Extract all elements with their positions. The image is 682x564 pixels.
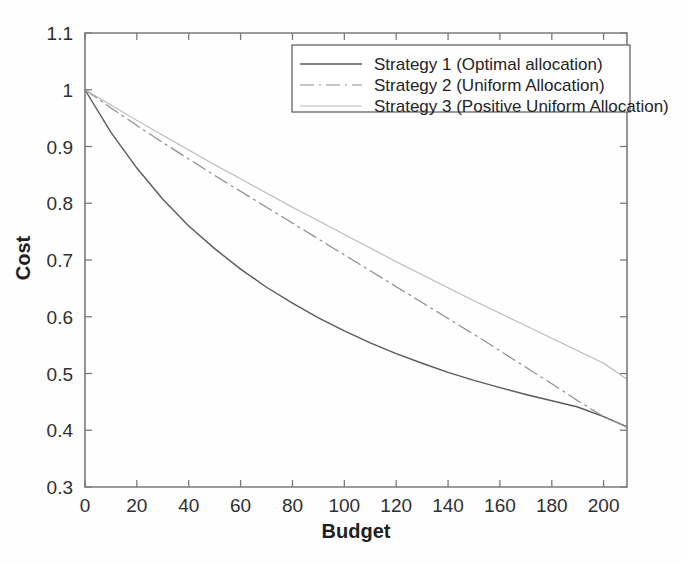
y-tick-label: 0.7 [47, 250, 73, 271]
y-tick-label: 0.9 [47, 137, 73, 158]
x-tick-label: 120 [380, 495, 412, 516]
x-tick-label: 140 [432, 495, 464, 516]
chart-canvas: 020406080100120140160180200 0.30.40.50.6… [0, 0, 682, 564]
y-tick-label: 0.4 [47, 420, 74, 441]
y-tick-label: 1 [62, 80, 73, 101]
legend-label-3: Strategy 3 (Positive Uniform Allocation) [374, 97, 669, 116]
legend-label-1: Strategy 1 (Optimal allocation) [374, 55, 603, 74]
y-tick-label: 0.3 [47, 477, 73, 498]
legend-label-2: Strategy 2 (Uniform Allocation) [374, 76, 605, 95]
series-line-2 [85, 90, 627, 427]
chart-legend[interactable]: Strategy 1 (Optimal allocation)Strategy … [292, 45, 669, 116]
y-tick-label: 0.8 [47, 193, 73, 214]
x-tick-label: 100 [328, 495, 360, 516]
y-tick-label-group: 0.30.40.50.60.70.80.911.1 [47, 23, 74, 498]
y-tick-label: 0.6 [47, 307, 73, 328]
x-tick-label: 20 [126, 495, 147, 516]
series-group [85, 90, 627, 427]
x-tick-label: 80 [282, 495, 303, 516]
series-line-1 [85, 90, 627, 427]
x-tick-label: 60 [230, 495, 251, 516]
x-tick-label: 160 [484, 495, 516, 516]
x-axis-title: Budget [322, 520, 391, 542]
x-tick-label: 180 [536, 495, 568, 516]
y-tick-label: 1.1 [47, 23, 73, 44]
chart-figure: 020406080100120140160180200 0.30.40.50.6… [0, 0, 682, 564]
x-tick-label: 40 [178, 495, 199, 516]
y-tick-label: 0.5 [47, 364, 73, 385]
x-tick-label-group: 020406080100120140160180200 [80, 495, 620, 516]
x-tick-label: 200 [588, 495, 620, 516]
x-tick-label: 0 [80, 495, 91, 516]
y-axis-title: Cost [12, 235, 34, 280]
